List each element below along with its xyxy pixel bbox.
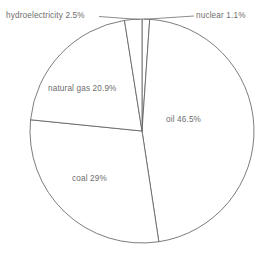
leader-lines-group: [99, 16, 194, 20]
pie-label-natural-gas: natural gas 20.9%: [48, 84, 117, 94]
pie-slice-natural-gas: [31, 20, 142, 131]
pie-label-hydroelectricity: hydroelectricity 2.5%: [6, 11, 85, 21]
pie-label-nuclear: nuclear 1.1%: [196, 11, 246, 21]
pie-chart-canvas: [0, 0, 263, 258]
pie-label-coal: coal 29%: [72, 174, 107, 184]
leader-line-nuclear: [144, 16, 194, 19]
pie-chart: hydroelectricity 2.5% nuclear 1.1% natur…: [0, 0, 263, 258]
pie-slice-oil: [142, 19, 254, 241]
pie-slices-group: [30, 19, 254, 243]
leader-line-hydroelectricity: [99, 17, 140, 20]
pie-label-oil: oil 46.5%: [166, 115, 201, 125]
